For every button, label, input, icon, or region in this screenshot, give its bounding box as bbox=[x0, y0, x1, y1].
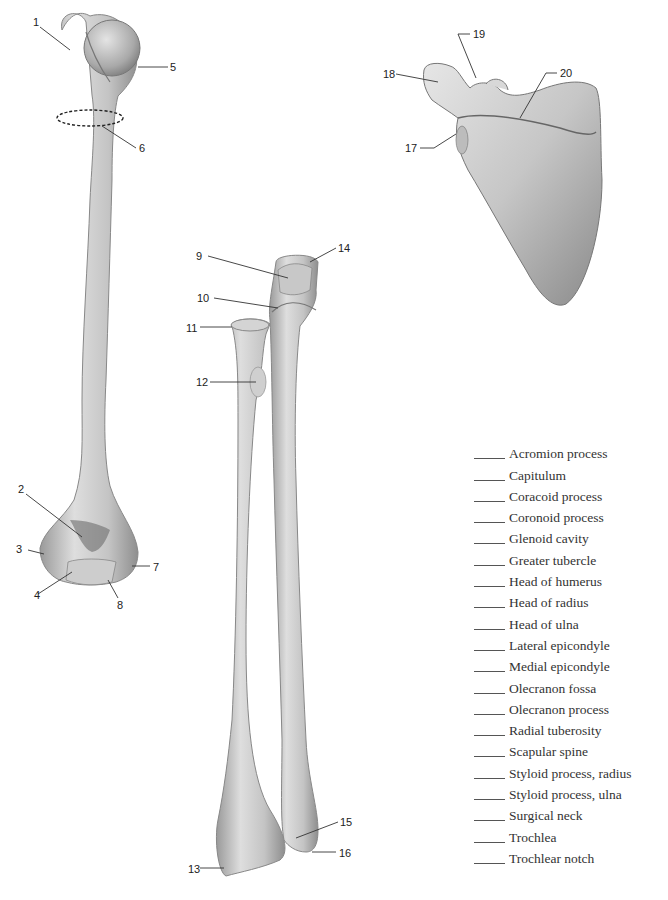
callout-10: 10 bbox=[197, 293, 209, 304]
term-item: Acromion process bbox=[474, 441, 632, 462]
callout-2: 2 bbox=[18, 484, 24, 495]
term-item: Glenoid cavity bbox=[474, 526, 632, 547]
callout-16: 16 bbox=[339, 848, 351, 859]
term-item: Surgical neck bbox=[474, 803, 632, 824]
term-item: Scapular spine bbox=[474, 739, 632, 760]
callout-11: 11 bbox=[186, 323, 197, 334]
answer-blank[interactable] bbox=[474, 458, 505, 459]
callout-19: 19 bbox=[473, 29, 485, 40]
term-label: Radial tuberosity bbox=[509, 723, 602, 739]
answer-blank[interactable] bbox=[474, 842, 505, 843]
callout-4: 4 bbox=[34, 590, 40, 601]
ulna bbox=[269, 255, 318, 852]
callout-20: 20 bbox=[560, 68, 572, 79]
callout-17: 17 bbox=[405, 143, 417, 154]
callout-8: 8 bbox=[117, 600, 123, 611]
callout-1: 1 bbox=[33, 17, 39, 28]
term-label: Styloid process, ulna bbox=[509, 787, 622, 803]
term-item: Radial tuberosity bbox=[474, 718, 632, 739]
term-item: Trochlear notch bbox=[474, 846, 632, 867]
answer-blank[interactable] bbox=[474, 480, 505, 481]
callout-5: 5 bbox=[170, 62, 176, 73]
callout-6: 6 bbox=[139, 143, 145, 154]
term-label: Glenoid cavity bbox=[509, 531, 589, 547]
callout-12: 12 bbox=[196, 377, 208, 388]
callout-14: 14 bbox=[338, 243, 350, 254]
term-label: Surgical neck bbox=[509, 808, 583, 824]
answer-blank[interactable] bbox=[474, 650, 505, 651]
term-label: Capitulum bbox=[509, 468, 566, 484]
term-item: Head of humerus bbox=[474, 569, 632, 590]
answer-blank[interactable] bbox=[474, 565, 505, 566]
term-item: Head of ulna bbox=[474, 611, 632, 632]
term-item: Styloid process, ulna bbox=[474, 782, 632, 803]
term-label: Greater tubercle bbox=[509, 553, 596, 569]
answer-blank[interactable] bbox=[474, 778, 505, 779]
scapula bbox=[423, 63, 602, 305]
answer-blank[interactable] bbox=[474, 629, 505, 630]
callout-7: 7 bbox=[153, 562, 159, 573]
answer-blank[interactable] bbox=[474, 714, 505, 715]
term-item: Greater tubercle bbox=[474, 547, 632, 568]
humerus bbox=[40, 13, 140, 585]
term-label: Lateral epicondyle bbox=[509, 638, 610, 654]
term-label: Head of humerus bbox=[509, 574, 602, 590]
term-label: Head of ulna bbox=[509, 617, 579, 633]
term-item: Coracoid process bbox=[474, 484, 632, 505]
answer-blank[interactable] bbox=[474, 799, 505, 800]
answer-blank[interactable] bbox=[474, 693, 505, 694]
callout-18: 18 bbox=[383, 69, 395, 80]
answer-blank[interactable] bbox=[474, 820, 505, 821]
answer-blank[interactable] bbox=[474, 863, 505, 864]
term-label: Medial epicondyle bbox=[509, 659, 610, 675]
term-label: Olecranon process bbox=[509, 702, 609, 718]
answer-blank[interactable] bbox=[474, 522, 505, 523]
term-item: Olecranon fossa bbox=[474, 675, 632, 696]
term-label: Scapular spine bbox=[509, 744, 588, 760]
term-item: Olecranon process bbox=[474, 697, 632, 718]
term-label: Coronoid process bbox=[509, 510, 604, 526]
diagram-stage: 1 2 3 4 5 6 7 8 9 10 11 12 13 14 15 16 1… bbox=[0, 0, 668, 900]
callout-13: 13 bbox=[188, 864, 200, 875]
answer-blank[interactable] bbox=[474, 543, 505, 544]
answer-blank[interactable] bbox=[474, 501, 505, 502]
term-item: Lateral epicondyle bbox=[474, 633, 632, 654]
term-item: Coronoid process bbox=[474, 505, 632, 526]
term-item: Head of radius bbox=[474, 590, 632, 611]
answer-blank[interactable] bbox=[474, 671, 505, 672]
answer-blank[interactable] bbox=[474, 735, 505, 736]
term-label: Head of radius bbox=[509, 595, 588, 611]
term-label: Styloid process, radius bbox=[509, 766, 632, 782]
answer-blank[interactable] bbox=[474, 607, 505, 608]
callout-9: 9 bbox=[196, 251, 202, 262]
answer-blank[interactable] bbox=[474, 756, 505, 757]
term-item: Styloid process, radius bbox=[474, 760, 632, 781]
term-item: Medial epicondyle bbox=[474, 654, 632, 675]
term-item: Capitulum bbox=[474, 462, 632, 483]
term-item: Trochlea bbox=[474, 824, 632, 845]
callout-15: 15 bbox=[340, 817, 352, 828]
answer-term-list: Acromion process Capitulum Coracoid proc… bbox=[474, 441, 632, 867]
answer-blank[interactable] bbox=[474, 586, 505, 587]
term-label: Trochlea bbox=[509, 830, 557, 846]
term-label: Acromion process bbox=[509, 446, 608, 462]
term-label: Coracoid process bbox=[509, 489, 602, 505]
term-label: Trochlear notch bbox=[509, 851, 594, 867]
term-label: Olecranon fossa bbox=[509, 681, 596, 697]
callout-3: 3 bbox=[16, 544, 22, 555]
